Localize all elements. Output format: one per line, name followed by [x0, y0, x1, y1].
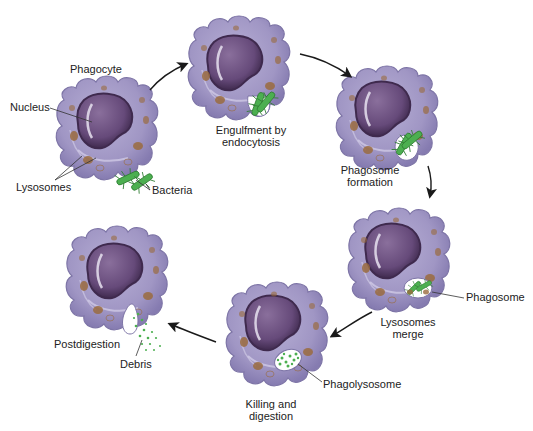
label-phagosome: Phagosome [466, 291, 525, 304]
arrow-1-to-2 [150, 64, 186, 90]
arrow-3-to-4 [428, 166, 431, 196]
label-killing-digestion-line2: digestion [236, 410, 306, 423]
label-debris: Debris [120, 358, 152, 371]
cell-postdigestion [66, 226, 168, 334]
arrow-2-to-3 [300, 54, 350, 76]
label-postdigestion: Postdigestion [54, 338, 120, 351]
cell-killing-digestion [226, 282, 328, 386]
label-phagolysosome: Phagolysosome [323, 378, 401, 391]
debris-callout-line [136, 340, 142, 356]
arrow-4-to-5 [332, 312, 372, 336]
label-lysosomes: Lysosomes [16, 181, 71, 194]
cell-phagocyte [56, 76, 158, 180]
label-engulfment-line2: endocytosis [213, 136, 289, 149]
cell-engulfment [188, 16, 290, 120]
label-bacteria: Bacteria [152, 184, 192, 197]
cell-phagosome-formation [336, 66, 438, 170]
cell-lysosomes-merge [348, 208, 450, 312]
label-nucleus: Nucleus [10, 101, 50, 114]
label-lysosomes-merge-line2: merge [376, 328, 440, 341]
label-phagocyte: Phagocyte [70, 63, 122, 76]
arrow-5-to-6 [170, 324, 216, 342]
label-phagosome-formation-line2: formation [340, 176, 400, 189]
